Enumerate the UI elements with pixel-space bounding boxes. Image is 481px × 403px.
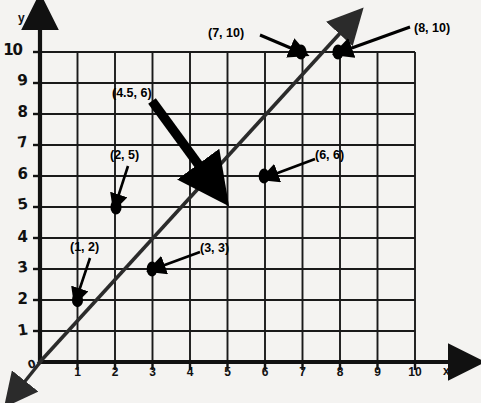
- point-label-8-10: (8, 10): [414, 21, 450, 35]
- point-label-2-5: (2, 5): [110, 148, 139, 162]
- x-tick-9: 9: [368, 365, 388, 379]
- graph-canvas: [0, 0, 481, 403]
- data-point-8-10: [332, 44, 343, 59]
- x-tick-6: 6: [255, 365, 275, 379]
- data-point-6-6: [259, 169, 270, 184]
- y-tick-4: 4: [5, 228, 27, 246]
- x-tick-1: 1: [68, 365, 88, 379]
- y-tick-2: 2: [5, 290, 27, 308]
- y-tick-9: 9: [4, 71, 28, 92]
- point-label-7-10: (7, 10): [208, 26, 244, 40]
- y-tick-3: 3: [4, 258, 28, 279]
- arrow-to-8-10: [349, 27, 410, 49]
- y-tick-1: 1: [4, 321, 28, 342]
- y-tick-6: 6: [5, 165, 27, 183]
- coordinate-graph: y x 0 1 2 3 4 5 6 7 8 9 10 1 2 3 4 5 6 7…: [0, 0, 481, 403]
- x-tick-8: 8: [330, 365, 350, 379]
- data-point-7-10: [295, 44, 306, 59]
- x-tick-5: 5: [218, 365, 238, 379]
- x-axis-label: x: [443, 364, 450, 378]
- point-label-1-2: (1, 2): [70, 240, 99, 254]
- x-tick-4: 4: [180, 365, 200, 379]
- axis-lines: [40, 26, 452, 362]
- point-label-6-6: (6, 6): [315, 148, 344, 162]
- data-point-1-2: [72, 293, 83, 307]
- x-tick-7: 7: [293, 365, 313, 379]
- y-tick-7: 7: [4, 133, 28, 154]
- x-tick-3: 3: [143, 365, 163, 379]
- arrow-to-6-6: [275, 159, 315, 174]
- x-tick-10: 10: [405, 365, 425, 379]
- x-tick-2: 2: [105, 365, 125, 379]
- data-point-2-5: [110, 199, 121, 214]
- y-axis-label: y: [18, 11, 25, 25]
- arrow-to-3-3: [162, 252, 200, 266]
- point-label-45-6: (4.5, 6): [112, 86, 152, 100]
- arrow-to-45-6: [152, 101, 201, 168]
- arrow-to-2-5: [118, 166, 128, 197]
- data-point-45-6: [203, 168, 214, 184]
- point-label-3-3: (3, 3): [200, 241, 229, 255]
- data-point-3-3: [147, 262, 158, 277]
- arrow-to-7-10: [260, 35, 293, 49]
- grid-lines: [40, 52, 415, 362]
- arrow-to-1-2: [79, 258, 90, 291]
- y-tick-5: 5: [4, 195, 28, 216]
- y-tick-8: 8: [5, 103, 27, 121]
- y-tick-10: 10: [0, 41, 22, 59]
